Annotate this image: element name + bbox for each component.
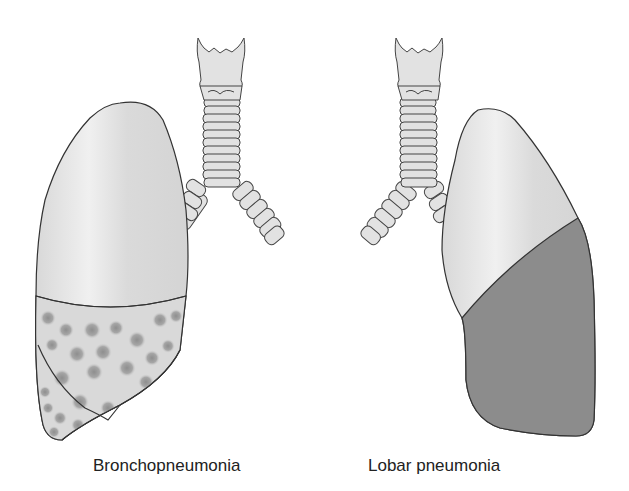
trachea-left [170, 38, 286, 247]
bronchopneumonia-label: Bronchopneumonia [93, 456, 240, 476]
trachea-rings [203, 98, 240, 187]
larynx [395, 38, 443, 88]
lobar-pneumonia-figure [359, 38, 595, 436]
larynx [197, 38, 245, 88]
lobar-pneumonia-label: Lobar pneumonia [368, 456, 500, 476]
lung-left-panel [36, 102, 188, 440]
left-bronchus-branch [359, 179, 418, 246]
trachea-right [359, 38, 455, 247]
pneumonia-diagram [0, 0, 629, 491]
trachea-rings [400, 98, 437, 187]
right-bronchus-branch [231, 179, 286, 246]
lung-right-panel [442, 109, 595, 436]
bronchopneumonia-figure [36, 38, 287, 440]
